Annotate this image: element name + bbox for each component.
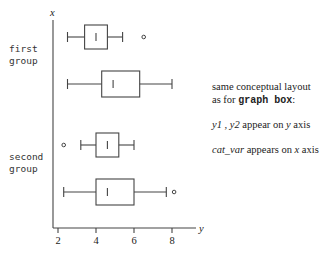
note-line-1: same conceptual layout bbox=[212, 81, 319, 94]
group-label-line2: group bbox=[9, 55, 38, 66]
group-label-line1: second bbox=[9, 151, 43, 162]
outlier-point bbox=[142, 35, 146, 39]
x-tick-label: 6 bbox=[131, 235, 136, 246]
note-line-4: cat_var appears on x axis bbox=[212, 144, 319, 157]
note-line-2: as for graph box: bbox=[212, 94, 319, 108]
group-label-line1: first bbox=[9, 43, 38, 54]
outlier-point bbox=[172, 190, 176, 194]
box bbox=[96, 179, 134, 205]
note-line-3: y1 , y2 appear on y axis bbox=[212, 119, 319, 132]
horizontal-axis-label: y bbox=[198, 223, 204, 234]
box bbox=[102, 71, 140, 97]
annotation-text: same conceptual layout as for graph box:… bbox=[212, 81, 319, 156]
x-tick-label: 4 bbox=[93, 235, 99, 246]
group-label-line2: group bbox=[9, 163, 38, 174]
vertical-axis-label: x bbox=[49, 7, 55, 18]
x-tick-label: 2 bbox=[55, 235, 60, 246]
outlier-point bbox=[62, 143, 66, 147]
x-tick-label: 8 bbox=[169, 235, 174, 246]
